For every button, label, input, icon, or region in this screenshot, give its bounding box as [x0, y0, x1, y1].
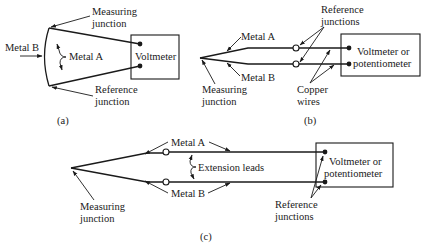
terminal-dot	[138, 42, 143, 47]
metal-b-label: Metal B	[5, 42, 39, 53]
instrument-label: Voltmeter or	[357, 46, 410, 57]
reference-junction-ring	[293, 61, 299, 67]
arrow-icon	[60, 57, 66, 70]
arrow-icon	[227, 37, 241, 51]
arrow-icon	[227, 63, 240, 76]
arrow-icon	[191, 167, 196, 179]
reference-junction-label: junction	[94, 96, 130, 107]
caption-c: (c)	[200, 231, 212, 243]
metal-b-wire	[45, 28, 50, 86]
reference-junctions-label: Reference	[321, 4, 364, 15]
arrow-icon	[208, 183, 230, 193]
measuring-junction-label: Measuring	[92, 6, 138, 17]
reference-junctions-label: Reference	[275, 199, 318, 210]
arrow-icon	[311, 156, 323, 198]
metal-a-label: Metal A	[171, 137, 206, 148]
arrow-icon	[51, 16, 90, 27]
arrow-icon	[57, 44, 66, 57]
terminal-dot	[347, 62, 352, 67]
arrow-icon	[310, 65, 334, 83]
metal-a-upper-wire	[49, 28, 140, 44]
arrow-icon	[310, 50, 330, 83]
terminal-dot	[323, 180, 328, 185]
caption-b: (b)	[304, 115, 317, 127]
reference-junction-label: Reference	[95, 84, 138, 95]
copper-wires-label: wires	[297, 96, 320, 107]
extension-junction-ring	[163, 179, 169, 185]
terminal-dot	[138, 64, 143, 69]
measuring-junction-label: Measuring	[80, 201, 126, 212]
instrument-label: Voltmeter or	[329, 156, 382, 167]
measuring-junction-label: junction	[201, 96, 237, 107]
arrow-icon	[300, 27, 324, 45]
metal-a-wire	[200, 48, 295, 58]
arrow-icon	[209, 142, 230, 151]
metal-a-lower-wire	[49, 66, 140, 86]
voltmeter-label: Voltmeter	[135, 51, 177, 62]
metal-b-wire	[71, 168, 163, 182]
measuring-junction-label: junction	[79, 213, 115, 224]
instrument-label: potentiometer	[353, 58, 412, 69]
measuring-junction-label: Measuring	[202, 84, 248, 95]
metal-a-label: Metal A	[69, 51, 104, 62]
extension-leads-label: Extension leads	[198, 162, 264, 173]
terminal-dot	[347, 46, 352, 51]
extension-junction-ring	[163, 149, 169, 155]
arrow-icon	[52, 87, 93, 96]
metal-b-label: Metal B	[241, 72, 275, 83]
metal-a-wire	[71, 153, 163, 168]
caption-a: (a)	[57, 115, 69, 127]
reference-junctions-label: junctions	[274, 211, 314, 222]
instrument-label: potentiometer	[324, 168, 383, 179]
reference-junctions-label: junctions	[320, 16, 360, 27]
metal-a-label: Metal A	[241, 31, 276, 42]
arrow-icon	[202, 60, 215, 84]
arrow-icon	[190, 155, 196, 167]
panel-a: Voltmeter Measuring junction Metal B Met…	[5, 6, 179, 127]
metal-b-wire	[200, 58, 295, 64]
panel-b: Voltmeter or potentiometer Reference jun…	[200, 4, 420, 127]
arrow-icon	[73, 171, 94, 200]
thermocouple-figure: Voltmeter Measuring junction Metal B Met…	[0, 0, 426, 248]
arrow-icon	[300, 27, 324, 62]
reference-junction-ring	[293, 45, 299, 51]
panel-c: Voltmeter or potentiometer Metal A Exten…	[71, 137, 393, 243]
copper-wires-label: Copper	[297, 84, 328, 95]
metal-b-label: Metal B	[171, 188, 205, 199]
measuring-junction-label: junction	[91, 18, 127, 29]
terminal-dot	[323, 150, 328, 155]
